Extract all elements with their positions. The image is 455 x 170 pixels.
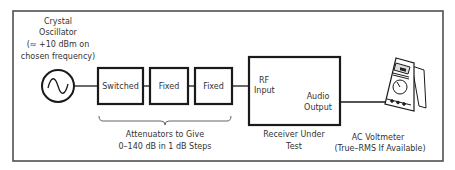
svg-text:Audio: Audio (307, 92, 330, 101)
attenuator-brace (99, 116, 231, 125)
svg-text:Switched: Switched (102, 82, 138, 91)
svg-text:(True–RMS If Available): (True–RMS If Available) (334, 144, 425, 153)
svg-text:chosen frequency): chosen frequency) (21, 52, 95, 61)
svg-text:Receiver Under: Receiver Under (263, 130, 325, 139)
svg-text:AC Voltmeter: AC Voltmeter (352, 133, 405, 142)
svg-text:Test: Test (285, 142, 302, 151)
test-setup-diagram: Crystal Oscillator (≈ +10 dBm on chosen … (0, 0, 455, 170)
receiver-caption: Receiver Under Test (263, 130, 325, 151)
receiver-under-test: RF Input Audio Output (249, 57, 340, 125)
svg-text:Fixed: Fixed (203, 82, 224, 91)
svg-text:RF: RF (259, 76, 270, 85)
multimeter-icon (385, 58, 426, 111)
svg-text:Output: Output (304, 103, 332, 112)
svg-text:Fixed: Fixed (159, 82, 180, 91)
svg-text:(≈ +10 dBm on: (≈ +10 dBm on (27, 40, 90, 49)
sine-wave-icon (42, 70, 74, 102)
attenuator-fixed-1: Fixed (150, 68, 188, 104)
voltmeter-caption: AC Voltmeter (True–RMS If Available) (334, 133, 425, 153)
attenuator-fixed-2: Fixed (195, 68, 232, 104)
svg-text:Input: Input (254, 86, 275, 95)
oscillator-label: Crystal Oscillator (≈ +10 dBm on chosen … (21, 17, 95, 61)
svg-text:0–140 dB in 1 dB Steps: 0–140 dB in 1 dB Steps (119, 142, 212, 151)
svg-text:Crystal: Crystal (44, 17, 72, 26)
svg-text:Attenuators to Give: Attenuators to Give (126, 130, 204, 139)
svg-text:Oscillator: Oscillator (39, 28, 77, 37)
attenuator-switched: Switched (98, 68, 143, 104)
attenuator-caption: Attenuators to Give 0–140 dB in 1 dB Ste… (119, 130, 212, 151)
